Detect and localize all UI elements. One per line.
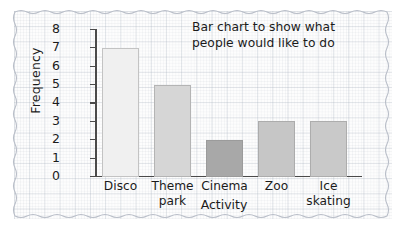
y-tick-label-4: 4	[40, 96, 60, 108]
bar-cinema	[206, 140, 243, 177]
y-tick-label-5: 5	[40, 78, 60, 90]
y-tick-label-0: 0	[40, 170, 60, 182]
chart-title-line-2: people would like to do	[192, 36, 388, 52]
y-tick-label-7: 7	[40, 41, 60, 53]
x-tick-label-disco-line-1: Disco	[94, 179, 147, 194]
y-tick-label-3: 3	[40, 115, 60, 127]
y-tick-label-8: 8	[40, 23, 60, 35]
x-tick-label-theme-park-line-1: Theme	[146, 179, 199, 194]
chart-screenshot: Bar chart to show what people would like…	[0, 0, 406, 231]
y-tick-label-1: 1	[40, 152, 60, 164]
x-tick-label-ice-skating: Ice skating	[302, 179, 355, 208]
x-tick-label-cinema-line-1: Cinema	[198, 179, 251, 194]
x-axis-title: Activity	[164, 197, 284, 212]
bar-disco	[102, 48, 139, 177]
x-tick-label-cinema: Cinema	[198, 179, 251, 194]
y-tick-label-2: 2	[40, 133, 60, 145]
y-tick-4	[90, 102, 96, 103]
chart-title-line-1: Bar chart to show what	[192, 20, 388, 36]
y-tick-5	[90, 84, 96, 85]
y-tick-6	[90, 66, 96, 67]
chart-title: Bar chart to show what people would like…	[192, 20, 388, 51]
y-tick-0	[90, 176, 96, 177]
bar-ice-skating	[310, 121, 347, 176]
y-tick-8	[90, 29, 96, 30]
y-tick-7	[90, 47, 96, 48]
x-tick-label-ice-skating-line-2: skating	[302, 194, 355, 209]
x-tick-label-zoo-line-1: Zoo	[250, 179, 303, 194]
bar-zoo	[258, 121, 295, 176]
y-tick-1	[90, 158, 96, 159]
x-tick-label-disco: Disco	[94, 179, 147, 194]
y-tick-label-6: 6	[40, 60, 60, 72]
x-tick-label-zoo: Zoo	[250, 179, 303, 194]
bar-theme-park	[154, 85, 191, 177]
plot-area: Bar chart to show what people would like…	[14, 11, 392, 219]
y-tick-2	[90, 139, 96, 140]
y-tick-3	[90, 121, 96, 122]
x-tick-label-ice-skating-line-1: Ice	[302, 179, 355, 194]
